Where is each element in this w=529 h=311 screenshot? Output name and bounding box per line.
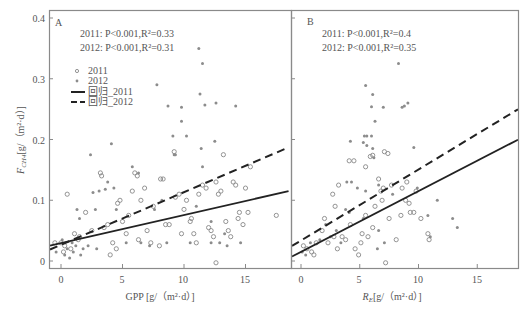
data-point-2011 [204,186,208,190]
data-point-2011 [340,235,344,239]
data-point-2011 [214,261,218,265]
data-point-2011 [331,192,335,196]
data-point-2011 [120,219,124,223]
data-point-2011 [399,213,403,217]
data-point-2011 [234,183,238,187]
data-point-2011 [211,235,215,239]
panel-b-x-axis-title-unit: [g/（m²·d）] [373,291,422,302]
data-point-2012 [429,235,432,238]
data-point-2012 [426,214,429,217]
data-point-2012 [374,120,377,123]
data-point-2011 [209,229,213,233]
data-point-2011 [236,216,240,220]
data-point-2012 [339,241,342,244]
panel-b-x-tick-5: 5 [357,274,362,285]
data-point-2011 [214,180,218,184]
y-tick-0.1: 0.1 [33,195,46,206]
data-point-2012 [370,105,373,108]
data-point-2011 [366,235,370,239]
data-point-2011 [197,192,201,196]
data-point-2012 [203,103,206,106]
data-point-2011 [243,186,247,190]
data-point-2012 [451,217,454,220]
data-point-2011 [312,253,316,257]
data-point-2011 [347,159,351,163]
data-point-2011 [114,247,118,251]
y-axis-title-sub: CH4 [20,154,28,168]
data-point-2012 [365,144,368,147]
data-point-2011 [226,229,230,233]
data-point-2011 [377,177,381,181]
panel-a: A 2011: P<0.001,R²=0.33 2012: P<0.001,R²… [50,17,289,265]
data-point-2011 [419,216,423,220]
data-point-2012 [139,241,142,244]
data-point-2012 [456,226,459,229]
y-tick-0.2: 0.2 [33,135,46,146]
data-point-2012 [115,208,118,211]
data-point-2011 [241,223,245,227]
data-point-2012 [199,92,202,95]
data-point-2011 [139,198,143,202]
data-point-2011 [179,232,183,236]
data-point-2011 [394,238,398,242]
data-point-2011 [246,210,250,214]
data-point-2011 [143,186,147,190]
data-point-2011 [322,216,326,220]
regression-line-2011 [292,140,518,257]
regression-line-2012 [292,109,518,246]
data-point-2012 [335,229,338,232]
y-tick-0.3: 0.3 [33,74,46,85]
data-point-2011 [182,207,186,211]
data-point-2011 [149,241,153,245]
panel-a-x-tick-0: 0 [59,274,64,285]
data-point-2011 [219,189,223,193]
data-point-2012 [371,93,374,96]
data-point-2011 [359,241,363,245]
panel-b-x-tick-10: 10 [413,274,423,285]
data-point-2011 [200,183,204,187]
data-point-2012 [371,147,374,150]
data-point-2012 [89,153,92,156]
data-point-2012 [185,134,188,137]
legend: 2011 2012 回归_2011 回归_2012 [71,65,133,107]
data-point-2012 [112,187,115,190]
data-point-2012 [363,134,366,137]
panel-a-stat-2011: 2011: P<0.001,R²=0.33 [80,28,174,39]
data-point-2011 [326,241,330,245]
data-point-2012 [213,140,216,143]
data-point-2012 [309,241,312,244]
data-point-2011 [426,232,430,236]
data-point-2012 [401,106,404,109]
data-point-2012 [189,241,192,244]
data-point-2011 [136,238,140,242]
legend-label-2012: 2012 [88,75,108,86]
data-point-2011 [157,244,161,248]
data-point-2012 [412,146,415,149]
data-point-2012 [55,250,58,253]
panel-a-label: A [55,17,63,28]
data-point-2011 [106,223,110,227]
data-point-2012 [377,184,380,187]
data-point-2011 [111,241,115,245]
data-point-2011 [357,253,361,257]
data-point-2011 [135,174,139,178]
data-point-2012 [210,241,213,244]
panel-a-x-tick-10: 10 [178,274,188,285]
data-point-2012 [78,217,81,220]
data-point-2012 [171,134,174,137]
data-point-2012 [215,102,218,105]
data-point-2012 [92,191,95,194]
data-point-2011 [427,238,431,242]
data-point-2011 [248,165,252,169]
data-point-2012 [165,241,168,244]
legend-filled-dot-icon [76,80,79,83]
legend-label-reg-2012: 回归_2012 [88,95,133,107]
panel-a-x-axis-title: GPP [g/（m²·d）] [125,291,194,302]
data-point-2012 [362,141,365,144]
data-point-2012 [106,181,109,184]
data-point-2012 [345,181,348,184]
data-point-2012 [95,247,98,250]
data-point-2011 [387,216,391,220]
panel-b-stat-2012: 2012: P<0.001,R²=0.35 [322,42,416,53]
data-point-2011 [335,247,339,251]
